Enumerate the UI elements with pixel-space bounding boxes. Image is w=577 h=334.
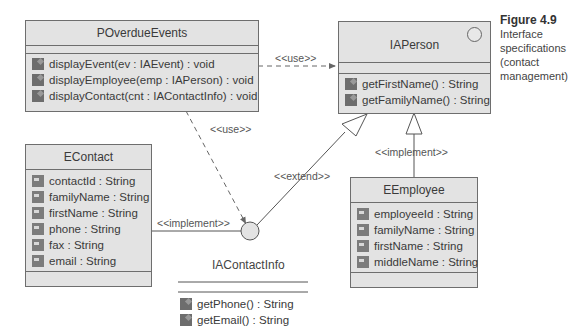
caption-line: specifications <box>500 41 568 55</box>
attribute-row: fax : String <box>26 237 151 253</box>
operation-compartment: getPhone() : String getEmail() : String <box>178 296 294 328</box>
operation-row: getFirstName() : String <box>339 76 490 92</box>
class-iaperson[interactable]: IAPerson getFirstName() : String getFami… <box>338 21 491 114</box>
operation-icon <box>180 314 192 326</box>
attribute-icon <box>357 256 369 268</box>
attribute-row: phone : String <box>26 221 151 237</box>
attribute-compartment: contactId : String familyName : String f… <box>26 170 151 272</box>
attribute-compartment <box>339 63 490 74</box>
figure-caption: Figure 4.9 Interface specifications (con… <box>500 13 568 83</box>
operation-icon <box>32 90 44 102</box>
operation-compartment: displayEvent(ev : IAEvent) : void displa… <box>26 54 258 105</box>
attribute-icon <box>32 239 44 251</box>
operation-icon <box>32 58 44 70</box>
operation-row: getPhone() : String <box>178 296 294 312</box>
attribute-icon <box>357 240 369 252</box>
implement-label: <<implement>> <box>157 217 230 229</box>
class-eemployee[interactable]: EEmployee employeeId : String familyName… <box>350 177 478 288</box>
attribute-icon <box>32 207 44 219</box>
attribute-row: contactId : String <box>26 173 151 189</box>
attribute-row: familyName : String <box>351 222 477 238</box>
figure-number: Figure 4.9 <box>500 13 568 27</box>
class-title: POverdueEvents <box>26 21 258 46</box>
caption-line: (contact <box>500 55 568 69</box>
operation-compartment: getFirstName() : String getFamilyName() … <box>339 74 490 109</box>
use-label: <<use>> <box>275 52 316 64</box>
extend-label: <<extend>> <box>274 170 330 182</box>
attribute-icon <box>357 224 369 236</box>
interface-title: IAContactInfo <box>212 258 285 272</box>
operation-icon <box>180 298 192 310</box>
implement-label: <<implement>> <box>375 146 448 158</box>
operation-row: getEmail() : String <box>178 312 294 328</box>
class-title: EContact <box>26 145 151 170</box>
attribute-row: firstName : String <box>351 238 477 254</box>
interface-circle-icon <box>467 27 482 42</box>
attribute-icon <box>32 175 44 187</box>
attribute-row: employeeId : String <box>351 206 477 222</box>
class-title: IAPerson <box>339 22 490 63</box>
class-econtact[interactable]: EContact contactId : String familyName :… <box>25 144 152 287</box>
attribute-compartment: employeeId : String familyName : String … <box>351 203 477 273</box>
class-title: EEmployee <box>351 178 477 203</box>
caption-line: management) <box>500 69 568 83</box>
operation-icon <box>345 94 357 106</box>
attribute-icon <box>32 223 44 235</box>
attribute-compartment <box>26 46 258 54</box>
operation-row: getFamilyName() : String <box>339 92 490 108</box>
attribute-row: familyName : String <box>26 189 151 205</box>
attribute-row: middleName : String <box>351 254 477 270</box>
attribute-icon <box>357 208 369 220</box>
attribute-icon <box>32 191 44 203</box>
interface-iacontactinfo[interactable]: IAContactInfo getPhone() : String getEma… <box>178 258 308 328</box>
caption-line: Interface <box>500 27 568 41</box>
attribute-row: firstName : String <box>26 205 151 221</box>
attribute-row: email : String <box>26 253 151 269</box>
operation-icon <box>32 74 44 86</box>
operation-row: displayEvent(ev : IAEvent) : void <box>26 56 258 72</box>
class-poverdueevents[interactable]: POverdueEvents displayEvent(ev : IAEvent… <box>25 20 259 112</box>
use-label: <<use>> <box>210 123 251 135</box>
operation-row: displayEmployee(emp : IAPerson) : void <box>26 72 258 88</box>
operation-icon <box>345 78 357 90</box>
operation-row: displayContact(cnt : IAContactInfo) : vo… <box>26 88 258 104</box>
attribute-icon <box>32 255 44 267</box>
